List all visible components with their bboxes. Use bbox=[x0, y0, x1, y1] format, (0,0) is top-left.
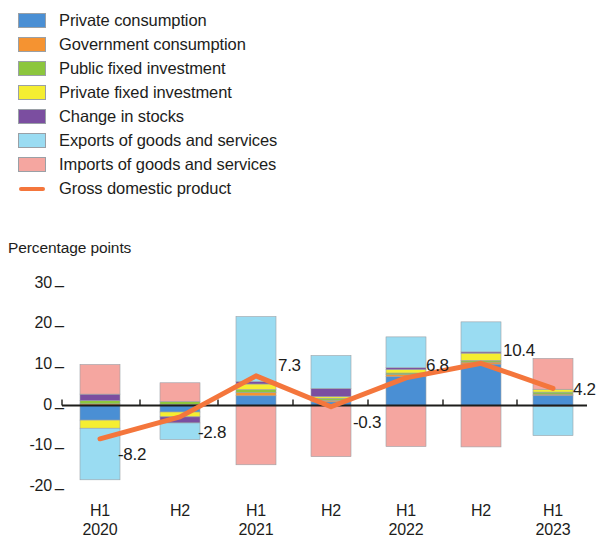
x-axis-half-label: H1 bbox=[396, 502, 416, 520]
y-axis-tick-mark: _ bbox=[55, 392, 64, 410]
y-axis-tick-mark: _ bbox=[55, 270, 64, 288]
x-axis-half-label: H1 bbox=[543, 502, 563, 520]
x-axis-half-label: H1 bbox=[246, 502, 266, 520]
x-axis-half-label: H2 bbox=[170, 502, 190, 520]
y-axis-tick-mark: _ bbox=[55, 432, 64, 450]
x-axis-year-label: 2020 bbox=[83, 521, 118, 538]
y-axis-tick-mark: _ bbox=[55, 310, 64, 328]
y-axis-tick-mark: _ bbox=[55, 473, 64, 491]
gdp-value-label: 6.8 bbox=[426, 356, 449, 376]
y-axis-tick-mark: _ bbox=[55, 351, 64, 369]
gdp-value-label: -8.2 bbox=[118, 445, 146, 465]
gdp-value-label: 7.3 bbox=[278, 356, 301, 376]
gdp-value-label: 4.2 bbox=[573, 380, 596, 400]
y-axis-tick-label: 0 bbox=[10, 396, 52, 414]
gdp-value-label: -2.8 bbox=[198, 423, 226, 443]
y-axis-tick-label: 30 bbox=[10, 274, 52, 292]
y-axis-tick-label: -20 bbox=[10, 477, 52, 495]
gdp-value-label: -0.3 bbox=[353, 413, 381, 433]
y-axis-tick-label: 10 bbox=[10, 355, 52, 373]
x-axis-half-label: H2 bbox=[471, 502, 491, 520]
x-axis-year-label: 2023 bbox=[536, 521, 571, 538]
gdp-value-label: 10.4 bbox=[503, 341, 535, 361]
x-axis-year-label: 2022 bbox=[389, 521, 424, 538]
x-axis-year-label: 2021 bbox=[239, 521, 274, 538]
y-axis-tick-label: -10 bbox=[10, 436, 52, 454]
y-axis-tick-label: 20 bbox=[10, 314, 52, 332]
x-axis-half-label: H2 bbox=[321, 502, 341, 520]
x-axis-half-label: H1 bbox=[90, 502, 110, 520]
